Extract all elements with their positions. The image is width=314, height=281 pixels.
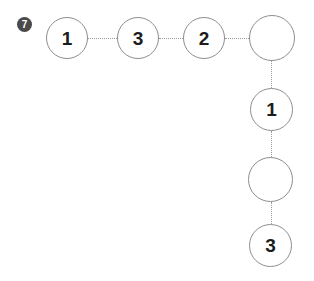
chain-node-3[interactable]: 2	[183, 17, 225, 59]
connector-n5-n6	[271, 131, 272, 157]
connector-n6-n7	[271, 202, 272, 224]
chain-node-5[interactable]: 1	[250, 88, 293, 131]
connector-n1-n2	[88, 38, 117, 39]
chain-node-2[interactable]: 3	[117, 17, 159, 59]
chain-node-label: 3	[265, 236, 276, 255]
chain-node-label: 3	[133, 28, 144, 47]
chain-node-4-empty[interactable]	[249, 15, 295, 61]
connector-n4-n5	[271, 61, 272, 88]
chain-node-6-empty[interactable]	[248, 157, 293, 202]
connector-n2-n3	[159, 38, 183, 39]
chain-node-1[interactable]: 1	[46, 17, 88, 59]
step-number-badge: 7	[17, 17, 32, 32]
chain-node-label: 1	[266, 100, 277, 119]
connector-n3-n4	[225, 38, 249, 39]
chain-node-label: 1	[62, 28, 73, 47]
diagram-canvas: 7 1 3 2 1 3	[0, 0, 314, 281]
chain-node-7[interactable]: 3	[249, 224, 292, 267]
chain-node-label: 2	[199, 28, 210, 47]
